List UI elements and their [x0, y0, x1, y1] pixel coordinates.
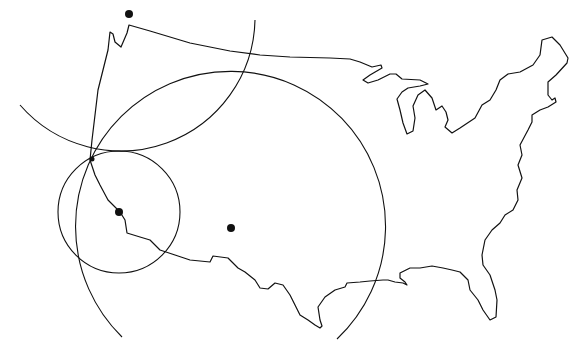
range-circle-central [76, 71, 386, 339]
range-circle-north [20, 20, 255, 151]
trilateration-map [0, 0, 581, 350]
station-central-dot [227, 224, 235, 232]
station-north-dot [125, 10, 133, 18]
intersection-point [90, 157, 95, 162]
station-west-dot [115, 208, 123, 216]
map-canvas [0, 0, 581, 350]
us-outline [90, 25, 568, 328]
